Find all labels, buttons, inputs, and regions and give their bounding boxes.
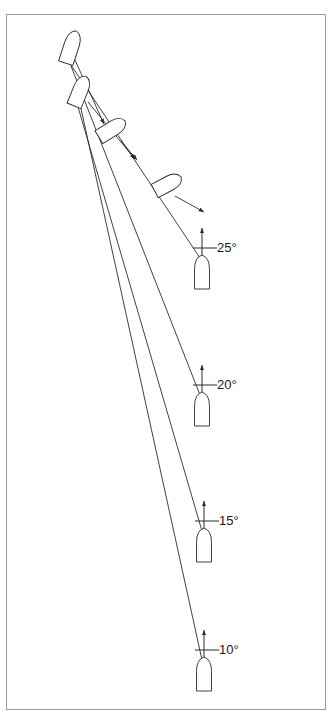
- rocket-launch-10: [197, 657, 212, 691]
- angle-reference-arrows: [193, 228, 219, 670]
- rocket-terminal-d: [151, 170, 185, 197]
- terminal-rockets: [59, 29, 185, 198]
- trajectory-15: [76, 100, 202, 531]
- trajectory-lines: [69, 62, 202, 660]
- angle-label-20: 20°: [217, 378, 237, 391]
- trajectory-10: [80, 104, 202, 660]
- angle-label-25: 25°: [217, 241, 237, 254]
- rocket-terminal-a: [59, 29, 84, 66]
- rocket-terminal-c: [95, 114, 129, 143]
- rocket-launch-15: [197, 528, 212, 562]
- velocity-arrows: [75, 60, 204, 212]
- velocity-arrow-c: [121, 141, 137, 160]
- velocity-arrow-d: [175, 196, 204, 212]
- angle-label-15: 15°: [219, 514, 239, 527]
- rocket-launch-25: [195, 255, 210, 289]
- diagram-canvas: [0, 0, 335, 724]
- trajectory-20: [71, 66, 200, 395]
- rocket-trajectory-figure: 25°20°15°10°: [0, 0, 335, 724]
- rocket-launch-20: [195, 392, 210, 426]
- launch-rockets: [195, 255, 212, 691]
- angle-label-10: 10°: [219, 643, 239, 656]
